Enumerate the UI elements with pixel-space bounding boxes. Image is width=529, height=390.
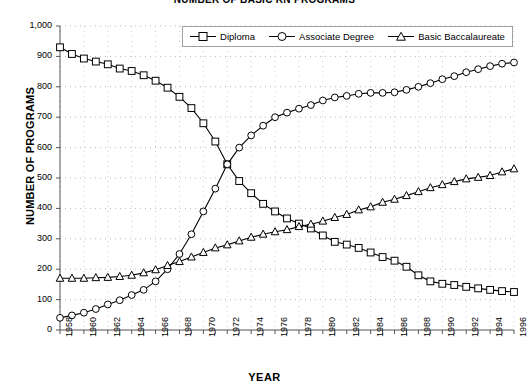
x-tick-label: 1966 [160, 317, 170, 337]
data-point-marker [439, 280, 446, 287]
data-point-marker [152, 278, 159, 285]
data-point-marker [367, 89, 374, 96]
data-point-marker [499, 60, 506, 67]
data-point-marker [403, 86, 410, 93]
data-point-marker [427, 80, 434, 87]
data-point-marker [140, 286, 147, 293]
data-point-marker [343, 241, 350, 248]
data-point-marker [116, 65, 123, 72]
x-tick-label: 1990 [446, 317, 456, 337]
y-tick-label: 100 [18, 294, 52, 304]
data-point-marker [319, 97, 326, 104]
data-point-marker [415, 83, 422, 90]
data-point-marker [439, 76, 446, 83]
data-point-marker [511, 59, 518, 66]
data-point-marker [176, 251, 183, 258]
y-tick-label: 1,000 [18, 20, 52, 30]
data-point-marker [379, 89, 386, 96]
y-tick-label: 400 [18, 202, 52, 212]
data-point-marker [427, 278, 434, 285]
x-tick-label: 1984 [375, 317, 385, 337]
data-point-marker [451, 73, 458, 80]
data-point-marker [403, 263, 410, 270]
data-point-marker [92, 58, 99, 65]
data-point-marker [379, 254, 386, 261]
data-point-marker [80, 309, 87, 316]
y-tick-label: 300 [18, 233, 52, 243]
data-point-marker [511, 289, 518, 296]
data-point-marker [236, 144, 243, 151]
data-point-marker [272, 114, 279, 121]
data-point-marker [451, 282, 458, 289]
legend-item-basic-baccalaureate[interactable]: Basic Baccalaureate [388, 31, 505, 42]
x-tick-label: 1980 [327, 317, 337, 337]
data-point-marker [176, 93, 183, 100]
x-tick-label: 1994 [494, 317, 504, 337]
data-point-marker [57, 314, 64, 321]
data-point-marker [248, 132, 255, 139]
data-point-marker [212, 185, 219, 192]
y-tick-label: 800 [18, 81, 52, 91]
data-point-marker [200, 120, 207, 127]
data-point-marker [248, 190, 255, 197]
x-tick-label: 1964 [136, 317, 146, 337]
data-point-marker [152, 77, 159, 84]
data-point-marker [260, 200, 267, 207]
data-point-marker [68, 274, 76, 281]
x-tick-label: 1972 [231, 317, 241, 337]
data-point-marker [463, 69, 470, 76]
series-line-basic-baccalaureate [60, 169, 514, 278]
data-point-marker [415, 272, 422, 279]
data-point-marker [499, 288, 506, 295]
data-point-marker [57, 44, 64, 51]
legend-label: Associate Degree [299, 32, 374, 42]
data-point-marker [319, 232, 326, 239]
y-tick-label: 200 [18, 263, 52, 273]
legend-label: Basic Baccalaureate [418, 32, 505, 42]
data-point-marker [188, 105, 195, 112]
x-tick-label: 1968 [183, 317, 193, 337]
data-point-marker [284, 215, 291, 222]
series-line-diploma [60, 47, 514, 292]
series-line-associate-degree [60, 62, 514, 317]
data-point-marker [212, 138, 219, 145]
x-tick-label: 1960 [88, 317, 98, 337]
x-tick-label: 1976 [279, 317, 289, 337]
y-tick-label: 700 [18, 111, 52, 121]
y-tick-label: 500 [18, 172, 52, 182]
x-tick-label: 1958 [64, 317, 74, 337]
data-point-marker [391, 257, 398, 264]
data-point-marker [355, 90, 362, 97]
chart-container: NUMBER OF BASIC RN PROGRAMS NUMBER OF PR… [0, 0, 529, 390]
data-point-marker [164, 84, 171, 91]
x-tick-label: 1978 [303, 317, 313, 337]
data-point-marker [80, 55, 87, 62]
data-point-marker [272, 208, 279, 215]
data-point-marker [260, 122, 267, 129]
data-point-marker [104, 301, 111, 308]
y-tick-label: 600 [18, 142, 52, 152]
data-point-marker [104, 61, 111, 68]
chart-legend: Diploma Associate Degree Basic Baccalaur… [182, 26, 513, 47]
x-tick-label: 1988 [422, 317, 432, 337]
data-point-marker [236, 178, 243, 185]
data-point-marker [487, 286, 494, 293]
legend-item-diploma[interactable]: Diploma [190, 31, 255, 42]
data-point-marker [56, 274, 64, 281]
x-tick-label: 1970 [207, 317, 217, 337]
data-point-marker [307, 102, 314, 109]
circle-marker-icon [269, 31, 295, 42]
data-point-marker [391, 89, 398, 96]
data-point-marker [188, 231, 195, 238]
data-point-marker [140, 72, 147, 79]
square-marker-icon [190, 31, 216, 42]
data-point-marker [475, 285, 482, 292]
data-point-marker [343, 93, 350, 100]
legend-item-associate-degree[interactable]: Associate Degree [269, 31, 374, 42]
x-tick-label: 1992 [470, 317, 480, 337]
data-point-marker [331, 238, 338, 245]
data-point-marker [463, 283, 470, 290]
data-point-marker [224, 161, 231, 168]
data-point-marker [200, 208, 207, 215]
y-tick-label: 0 [18, 324, 52, 334]
